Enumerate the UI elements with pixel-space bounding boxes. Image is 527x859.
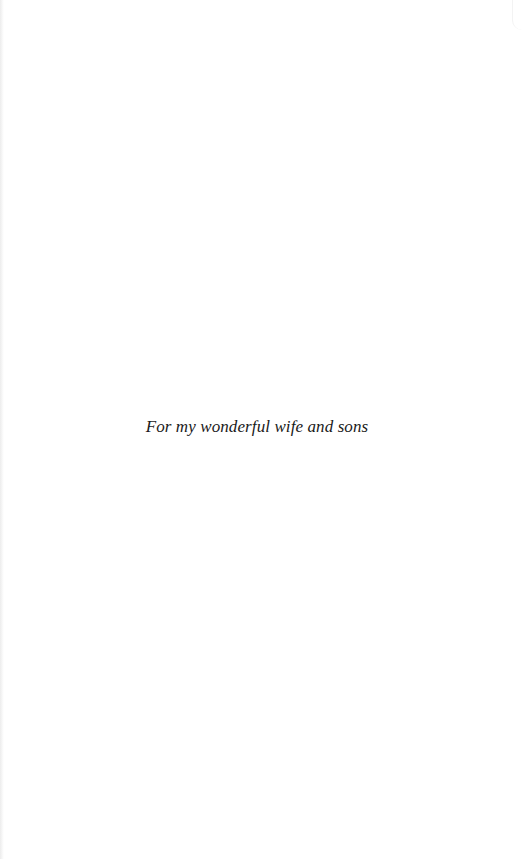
dedication-text: For my wonderful wife and sons <box>0 417 514 437</box>
book-page: For my wonderful wife and sons <box>0 0 527 859</box>
page-corner-mark <box>512 0 527 30</box>
